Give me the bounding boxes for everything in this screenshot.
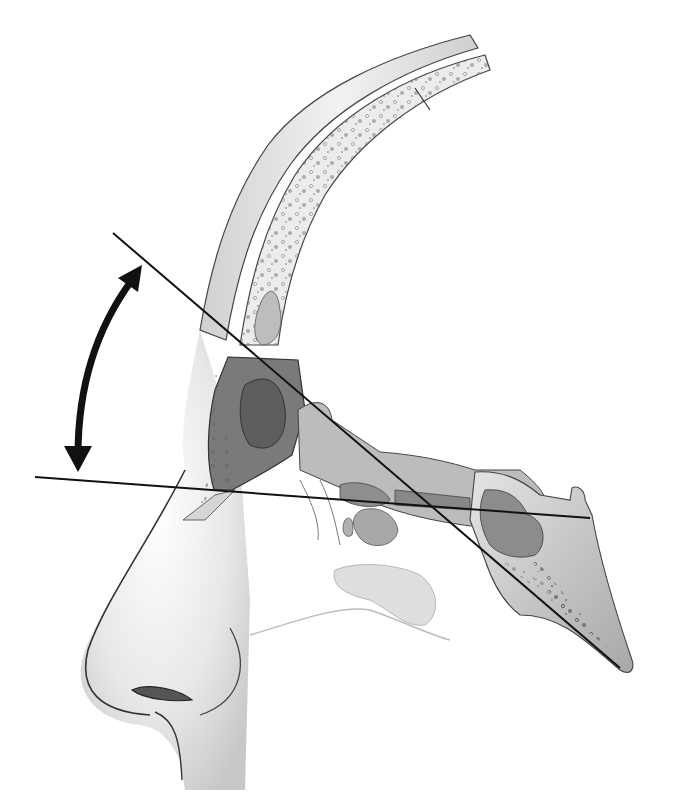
illustration-canvas: [0, 0, 674, 810]
sphenoid-bone: [470, 472, 633, 673]
angle-double-arrow-icon: [64, 265, 142, 472]
frontal-bone: [200, 35, 490, 345]
palate-outline: [250, 565, 450, 640]
nasal-sinus-illustration: [0, 0, 674, 810]
